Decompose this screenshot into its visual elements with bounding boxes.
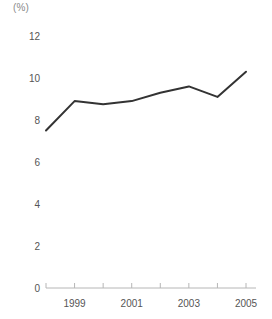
plot-area	[0, 0, 272, 319]
line-chart: (%) 024681012 1999200120032005	[0, 0, 272, 319]
x-axis-tick-label: 2005	[235, 298, 257, 309]
data-series-line	[46, 72, 246, 131]
x-axis-tick-label: 2003	[178, 298, 200, 309]
x-axis-ticks	[46, 283, 246, 288]
x-axis-tick-label: 1999	[63, 298, 85, 309]
x-axis-tick-label: 2001	[121, 298, 143, 309]
